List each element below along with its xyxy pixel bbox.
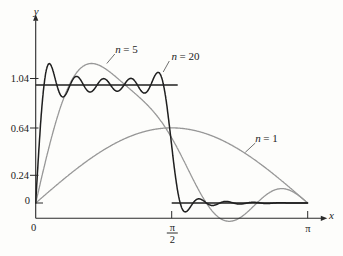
annotation-pointer-n5 [107,54,115,64]
x-tick-label-pi: π [305,223,311,234]
annotation-pointer-n20 [163,61,169,72]
annotation-n20: n= 20 [172,50,200,62]
y-tick-label-0-64: 0.64 [11,123,30,134]
x-axis-arrow-icon [321,216,328,221]
y-axis-label: y [33,5,39,17]
fourier-series-chart: x y 0 0.24 0.64 1.04 0 π 2 π n= 5 n= 20 … [0,0,343,256]
annotation-n5: n= 5 [115,43,138,55]
x-tick-label-0: 0 [31,222,36,233]
x-axis-label: x [328,209,334,221]
x-tick-label-pi-2-denominator: 2 [170,234,175,245]
y-tick-label-0-24: 0.24 [11,170,30,181]
y-tick-label-0: 0 [25,195,30,206]
x-tick-label-pi-2-numerator: π [170,222,176,233]
x-tick-label-pi-2-fraction: π 2 [167,222,178,245]
annotation-n1: n= 1 [255,132,277,144]
y-tick-label-1-04: 1.04 [11,73,30,84]
annotation-pointer-n1 [245,143,255,152]
figure-canvas: x y 0 0.24 0.64 1.04 0 π 2 π n= 5 n= 20 … [0,0,343,256]
